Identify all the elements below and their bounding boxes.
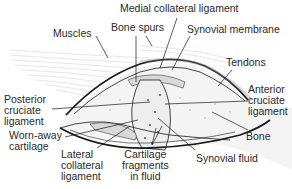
label-tendons: Tendons	[226, 57, 266, 68]
label-worn-away-cartilage: Worn-away cartilage	[9, 130, 62, 152]
label-synovial-membrane: Synovial membrane	[187, 24, 280, 35]
label-bone: Bone	[246, 131, 271, 142]
label-lateral-collateral-ligament: Lateral collateral ligament	[61, 149, 103, 182]
label-cartilage-fragments: Cartilage fragments in fluid	[122, 149, 169, 182]
label-bone-spurs: Bone spurs	[111, 22, 164, 33]
joint-diagram: Medial collateral ligament Bone spurs Sy…	[0, 0, 292, 189]
label-muscles: Muscles	[53, 28, 92, 39]
label-synovial-fluid: Synovial fluid	[196, 153, 258, 164]
label-anterior-cruciate-ligament: Anterior cruciate ligament	[248, 84, 288, 117]
label-medial-collateral-ligament: Medial collateral ligament	[120, 3, 238, 14]
label-posterior-cruciate-ligament: Posterior cruciate ligament	[4, 94, 46, 127]
joint-space	[132, 80, 171, 150]
